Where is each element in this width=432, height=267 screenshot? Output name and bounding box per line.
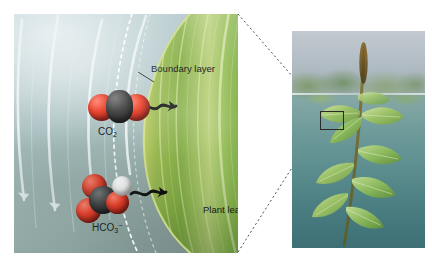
photo-panel bbox=[292, 31, 425, 248]
magnification-callout-box bbox=[320, 111, 344, 130]
pondweed-plant bbox=[292, 31, 425, 248]
figure-root: Boundary layer CO2 HCO3− Plant leaf bbox=[0, 0, 432, 267]
